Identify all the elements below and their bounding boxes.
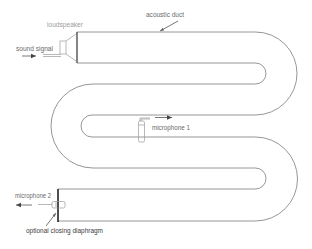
microphone-1-icon xyxy=(139,118,151,142)
loudspeaker-label: loudspeaker xyxy=(47,21,84,29)
microphone-2-label: microphone 2 xyxy=(15,192,51,200)
microphone-2-icon xyxy=(38,202,65,209)
acoustic-duct-diagram: loudspeaker sound signal acoustic duct m… xyxy=(0,0,312,249)
closing-diaphragm-label: optional closing diaphragm xyxy=(26,227,103,235)
diaphragm-leader-arrow-icon xyxy=(46,213,56,226)
microphone-1-label: microphone 1 xyxy=(152,124,190,132)
acoustic-duct-label: acoustic duct xyxy=(146,11,184,18)
acoustic-duct-leader-arrow-icon xyxy=(160,21,178,31)
sound-signal-label: sound signal xyxy=(16,45,53,53)
